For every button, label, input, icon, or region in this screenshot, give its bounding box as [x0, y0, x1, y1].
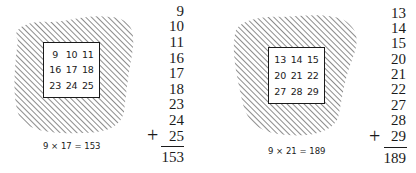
grid-cell: 13	[272, 52, 288, 68]
addend: 10	[169, 19, 184, 34]
number-grid-2: 13 14 15 20 21 22 27 28 29	[268, 47, 325, 104]
grid-cell: 18	[80, 62, 96, 77]
grid-cell: 15	[305, 52, 321, 68]
addend: 28	[391, 113, 406, 128]
addition-column-1: 9 10 11 16 17 18 23 24 25	[150, 0, 184, 140]
grid-cell: 23	[47, 78, 63, 93]
addend: 22	[391, 82, 406, 97]
grid-cell: 9	[47, 47, 63, 62]
grid-cell: 21	[288, 68, 304, 84]
addend: 23	[169, 97, 184, 112]
grid-cell: 22	[305, 68, 321, 84]
grid-cell: 27	[272, 83, 288, 99]
addition-column-2: 13 14 15 20 21 22 27 28 29	[372, 0, 406, 140]
addend: 11	[170, 35, 184, 50]
addend: 21	[391, 67, 406, 82]
number-grid-1: 9 10 11 16 17 18 23 24 25	[43, 42, 100, 98]
grid-cell: 10	[63, 47, 79, 62]
grid-cell: 28	[288, 83, 304, 99]
grid-cell: 20	[272, 68, 288, 84]
grid-cell: 11	[80, 47, 96, 62]
addend: 15	[391, 36, 406, 51]
addend: 24	[169, 113, 184, 128]
addend: 18	[169, 82, 184, 97]
plus-sign: +	[147, 128, 158, 143]
grid-cell: 24	[63, 78, 79, 93]
equation-caption-2: 9 × 21 = 189	[268, 146, 326, 156]
sum-total-1: 153	[150, 150, 184, 165]
sum-rule-2	[384, 147, 407, 148]
addend: 16	[169, 51, 184, 66]
addend: 25	[169, 129, 184, 144]
equation-caption-1: 9 × 17 = 153	[43, 141, 101, 151]
addend: 20	[391, 52, 406, 67]
addend: 9	[177, 4, 185, 19]
addend: 13	[391, 6, 406, 21]
sum-total-2: 189	[372, 151, 406, 166]
grid-cell: 14	[288, 52, 304, 68]
grid-cell: 16	[47, 62, 63, 77]
addend: 29	[391, 129, 406, 144]
addend: 17	[169, 66, 184, 81]
addend: 27	[391, 98, 406, 113]
grid-cell: 17	[63, 62, 79, 77]
addend: 14	[391, 21, 406, 36]
grid-cell: 25	[80, 78, 96, 93]
grid-cell: 29	[305, 83, 321, 99]
plus-sign: +	[369, 129, 380, 144]
sum-rule-1	[161, 146, 184, 147]
